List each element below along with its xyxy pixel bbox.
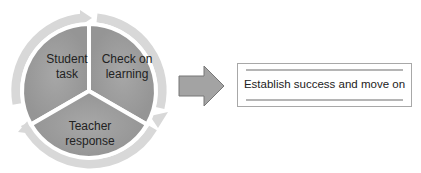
segment-label-teacher-response: Teacher response [58, 119, 122, 149]
decorative-bar-bottom [246, 99, 403, 101]
label-line: Teacher [58, 119, 122, 134]
label-line: response [58, 134, 122, 149]
label-line: Student [45, 52, 89, 67]
result-box: Establish success and move on [237, 63, 412, 107]
decorative-bar-top [246, 69, 403, 71]
label-line: learning [95, 67, 159, 82]
segment-label-check-on-learning: Check on learning [95, 52, 159, 82]
result-label: Establish success and move on [238, 78, 411, 90]
label-line: Check on [95, 52, 159, 67]
segment-label-student-task: Student task [45, 52, 89, 82]
cycle-diagram: Student task Check on learning Teacher r… [0, 0, 421, 173]
label-line: task [45, 67, 89, 82]
right-arrow-icon [177, 64, 227, 108]
